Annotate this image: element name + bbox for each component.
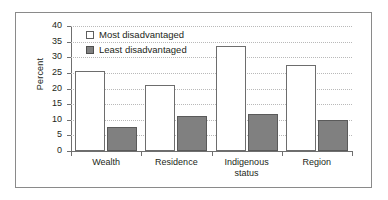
x-axis-label-0: Wealth (71, 157, 141, 168)
legend-label-most: Most disadvantaged (99, 30, 184, 40)
y-tick-label-20: 20 (40, 84, 62, 93)
legend-item-most: Most disadvantaged (86, 27, 187, 42)
y-tick-label-35: 35 (40, 37, 62, 46)
x-axis-separator-4 (352, 151, 353, 156)
bar-most-2 (216, 46, 246, 151)
x-axis-label-0-line-0: Wealth (71, 157, 141, 168)
bar-least-2 (248, 114, 278, 151)
x-axis-separator-2 (212, 151, 213, 156)
x-axis-separator-3 (282, 151, 283, 156)
open-square-icon (86, 31, 94, 39)
gridline-30 (71, 57, 352, 58)
bar-most-1 (145, 85, 175, 151)
filled-square-icon (86, 46, 94, 54)
legend-item-least: Least disadvantaged (86, 42, 187, 57)
y-tick-label-15: 15 (40, 99, 62, 108)
bar-most-0 (75, 71, 105, 151)
x-axis-label-2-line-0: Indigenous (212, 157, 282, 168)
x-axis-label-2: Indigenousstatus (212, 157, 282, 179)
legend-label-least: Least disadvantaged (99, 45, 187, 55)
y-tick-label-40: 40 (40, 21, 62, 30)
bar-least-3 (318, 120, 348, 151)
y-tick-label-0: 0 (40, 146, 62, 155)
x-axis-separator-0 (71, 151, 72, 156)
x-axis-label-2-line-1: status (212, 168, 282, 179)
bar-least-1 (177, 116, 207, 151)
x-axis-label-3: Region (282, 157, 352, 168)
y-tick-label-10: 10 (40, 115, 62, 124)
bar-most-3 (286, 65, 316, 151)
x-axis-label-3-line-0: Region (282, 157, 352, 168)
y-tick-label-5: 5 (40, 130, 62, 139)
x-axis-label-1: Residence (141, 157, 211, 168)
y-tick-label-30: 30 (40, 52, 62, 61)
x-axis-label-1-line-0: Residence (141, 157, 211, 168)
y-tick-label-25: 25 (40, 68, 62, 77)
bar-least-0 (107, 127, 137, 151)
chart-figure: Percent 0510152025303540 WealthResidence… (15, 12, 372, 188)
chart-legend: Most disadvantaged Least disadvantaged (86, 27, 187, 57)
x-axis-separator-1 (141, 151, 142, 156)
